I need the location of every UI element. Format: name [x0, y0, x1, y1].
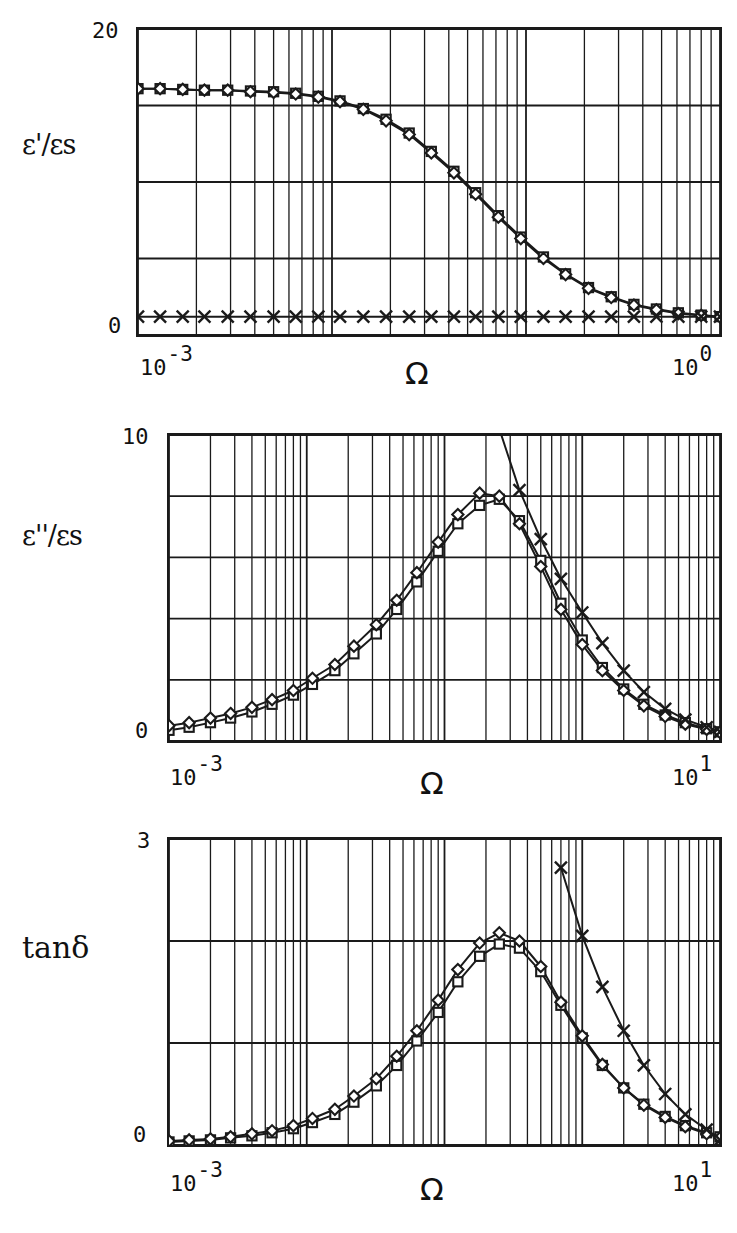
- panel1-x-axis-title: Ω: [405, 355, 429, 391]
- panel2-xtick-left-base: 10: [170, 765, 197, 790]
- panel1-xtick-right-exp: 0: [700, 342, 713, 366]
- panel1-data-series: [138, 29, 720, 335]
- panel3-plot-area: [167, 837, 722, 1147]
- panel3-xtick-right: 101: [672, 1171, 711, 1196]
- panel2-xtick-right: 101: [672, 765, 711, 790]
- panel3-xtick-right-base: 10: [672, 1171, 699, 1196]
- panel1-xtick-right-base: 10: [672, 355, 699, 380]
- panel3-xtick-left-exp: -3: [198, 1158, 223, 1182]
- panel1-xtick-left: 10-3: [140, 355, 192, 380]
- panel1-xtick-left-exp: -3: [168, 342, 193, 366]
- panel1-ymin-label: 0: [108, 313, 121, 338]
- panel2-plot-area: [167, 433, 722, 743]
- panel2-ymax-label: 10: [122, 424, 149, 449]
- panel3-xtick-right-exp: 1: [700, 1158, 713, 1182]
- figure-canvas: 20 0 ε'/εs 10-3 Ω 100 10 0 ε''/εs 10-3 Ω…: [0, 0, 737, 1233]
- panel1-y-axis-title: ε'/εs: [22, 129, 75, 160]
- panel3-y-axis-title: tanδ: [22, 930, 89, 965]
- panel3-xtick-left-base: 10: [170, 1171, 197, 1196]
- panel1-xtick-left-base: 10: [140, 355, 167, 380]
- panel3-xtick-left: 10-3: [170, 1171, 222, 1196]
- panel2-xtick-right-exp: 1: [700, 752, 713, 776]
- panel3-data-series: [169, 839, 720, 1145]
- panel1-xtick-right: 100: [672, 355, 711, 380]
- panel2-x-axis-title: Ω: [420, 765, 444, 801]
- panel3-ymin-label: 0: [133, 1122, 146, 1147]
- panel1-plot-area: [136, 27, 722, 337]
- panel3-ymax-label: 3: [137, 828, 150, 853]
- panel3-x-axis-title: Ω: [420, 1171, 444, 1207]
- panel2-xtick-left: 10-3: [170, 765, 222, 790]
- panel2-data-series: [169, 435, 720, 741]
- panel1-ymax-label: 20: [92, 18, 119, 43]
- panel2-ymin-label: 0: [135, 718, 148, 743]
- panel2-xtick-right-base: 10: [672, 765, 699, 790]
- panel2-y-axis-title: ε''/εs: [22, 520, 82, 551]
- panel2-xtick-left-exp: -3: [198, 752, 223, 776]
